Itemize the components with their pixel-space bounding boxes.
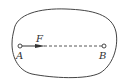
- point-a-marker: [18, 44, 22, 48]
- diagram-canvas: F A B: [0, 0, 124, 83]
- point-b-marker: [102, 44, 106, 48]
- force-arrow-head-icon: [35, 44, 45, 48]
- force-label: F: [35, 33, 44, 44]
- closed-boundary-curve: [12, 9, 117, 78]
- point-b-label: B: [98, 50, 106, 61]
- point-a-label: A: [15, 50, 23, 61]
